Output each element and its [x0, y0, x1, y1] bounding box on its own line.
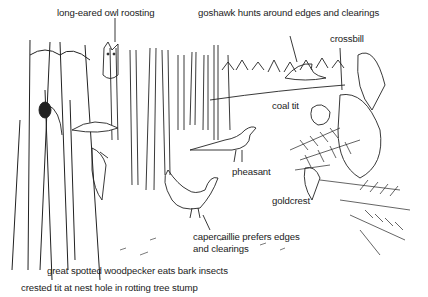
coal-tit-drawing: [311, 105, 330, 125]
bracket-fungus: [72, 122, 118, 132]
label-goshawk: goshawk hunts around edges and clearings: [198, 7, 379, 18]
label-crested-tit: crested tit at nest hole in rotting tree…: [21, 282, 198, 293]
goshawk-drawing: [285, 64, 326, 80]
label-capercaillie-line2: and clearings: [193, 243, 249, 254]
pheasant-drawing: [190, 127, 256, 162]
horizon-line: [210, 85, 345, 100]
label-coal-tit: coal tit: [272, 100, 299, 111]
crested-tit-drawing: [39, 102, 62, 135]
label-pheasant: pheasant: [232, 166, 271, 177]
pine-branches: [290, 128, 410, 255]
capercaillie-drawing: [165, 170, 218, 218]
label-long-eared-owl: long-eared owl roosting: [57, 7, 154, 18]
distant-treeline: [222, 58, 344, 72]
capercaillie-leader-line: [203, 215, 210, 230]
label-goldcrest: goldcrest: [272, 195, 310, 206]
goshawk-leader-line: [290, 36, 297, 62]
label-capercaillie-line1: capercaillie prefers edges: [193, 231, 300, 242]
rotting-stump: [12, 40, 100, 280]
woodland-illustration: long-eared owl roosting goshawk hunts ar…: [0, 0, 428, 297]
label-woodpecker: great spotted woodpecker eats bark insec…: [47, 265, 228, 276]
crossbill-drawing: [338, 53, 385, 178]
label-crossbill: crossbill: [330, 33, 364, 44]
background-trees: [110, 45, 230, 190]
pine-cone: [358, 53, 385, 110]
crossbill-leader-line: [340, 48, 342, 90]
